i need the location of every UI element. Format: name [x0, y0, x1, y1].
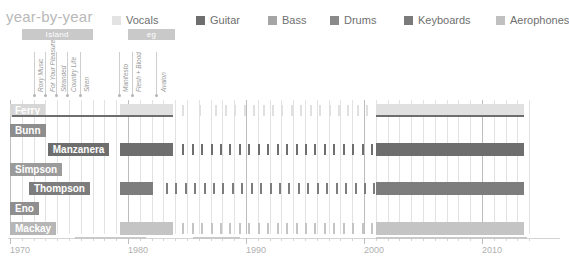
activity-block[interactable] — [376, 182, 525, 195]
row-label-thompson[interactable]: Thompson — [29, 182, 90, 195]
gridline — [506, 100, 507, 234]
axis-label-1990: 1990 — [246, 245, 266, 255]
gridline — [222, 100, 223, 234]
gridline — [69, 100, 70, 234]
legend-item-aerophones[interactable]: Aerophones — [496, 10, 569, 24]
era-bar-island[interactable]: Island — [22, 29, 93, 40]
activity-tick — [305, 144, 307, 155]
activity-block[interactable] — [120, 143, 173, 156]
activity-tick — [270, 183, 272, 194]
legend-item-guitar[interactable]: Guitar — [196, 10, 240, 24]
row-label-bunn[interactable]: Bunn — [10, 124, 46, 137]
activity-tick — [296, 144, 298, 155]
album-marker-dot — [131, 94, 134, 97]
gridline — [293, 100, 294, 234]
activity-tick — [204, 183, 206, 194]
legend-swatch-icon — [196, 16, 205, 25]
activity-tick — [211, 223, 213, 234]
row-label-manzanera[interactable]: Manzanera — [48, 143, 110, 156]
activity-tick — [324, 223, 326, 234]
axis-tick — [270, 238, 271, 241]
activity-tick — [248, 144, 250, 155]
album-label: Flesh + Blood — [135, 52, 142, 92]
gridline — [211, 100, 212, 234]
activity-tick — [307, 183, 309, 194]
legend-item-vocals[interactable]: Vocals — [112, 10, 158, 24]
axis-highlight — [75, 237, 146, 239]
album-marker-line — [119, 52, 120, 96]
activity-tick — [329, 105, 331, 116]
activity-block[interactable] — [376, 143, 525, 156]
legend-label: Drums — [344, 14, 376, 26]
gridline — [470, 100, 471, 234]
activity-tick — [220, 223, 222, 234]
gridline — [435, 100, 436, 234]
gridline — [270, 100, 271, 234]
row-label-simpson[interactable]: Simpson — [10, 163, 62, 176]
gridline — [388, 100, 389, 234]
era-bar-eg[interactable]: eg — [128, 29, 175, 40]
activity-tick — [175, 183, 177, 194]
activity-tick — [277, 144, 279, 155]
page-title: year-by-year — [6, 8, 93, 25]
activity-tick — [336, 183, 338, 194]
album-marker-line — [56, 52, 57, 96]
legend-item-bass[interactable]: Bass — [268, 10, 306, 24]
activity-tick — [277, 223, 279, 234]
activity-tick — [272, 105, 274, 116]
album-marker-dot — [55, 94, 58, 97]
axis-label-2010: 2010 — [482, 245, 502, 255]
axis-label-1980: 1980 — [128, 245, 148, 255]
activity-tick — [182, 105, 184, 116]
activity-tick — [192, 223, 194, 234]
activity-tick — [338, 105, 340, 116]
activity-tick — [286, 223, 288, 234]
gridline — [93, 100, 94, 234]
axis-tick — [293, 238, 294, 241]
activity-tick — [201, 223, 203, 234]
gridline — [423, 100, 424, 234]
gridline — [447, 100, 448, 234]
axis-tick — [258, 238, 259, 241]
gridline — [340, 100, 341, 234]
row-label-eno[interactable]: Eno — [10, 202, 39, 215]
activity-tick — [199, 105, 201, 116]
gridline — [175, 100, 176, 234]
axis-tick — [152, 238, 153, 241]
activity-tick — [281, 105, 283, 116]
activity-tick — [371, 223, 373, 234]
row-label-mackay[interactable]: Mackay — [10, 222, 56, 235]
album-label: Country Life — [70, 57, 77, 92]
activity-block[interactable] — [120, 222, 173, 235]
axis-tick — [246, 238, 247, 244]
gridline — [81, 100, 82, 234]
album-marker-dot — [44, 94, 47, 97]
timeline-plot: FerryBunnManzaneraSimpsonThompsonEnoMack… — [0, 100, 568, 238]
album-label: Manifesto — [122, 64, 129, 92]
axis-tick — [340, 238, 341, 241]
activity-tick — [305, 223, 307, 234]
activity-tick — [241, 183, 243, 194]
activity-tick — [244, 105, 246, 116]
activity-tick — [296, 223, 298, 234]
legend-item-keyboards[interactable]: Keyboards — [404, 10, 471, 24]
activity-block[interactable] — [120, 182, 153, 195]
legend-item-drums[interactable]: Drums — [330, 10, 376, 24]
activity-tick — [279, 183, 281, 194]
album-marker-line — [132, 52, 133, 96]
activity-tick — [239, 144, 241, 155]
ferry-accent-line — [376, 115, 525, 117]
ferry-accent-line — [12, 115, 172, 117]
activity-tick — [258, 144, 260, 155]
axis-tick — [281, 238, 282, 241]
gridline — [234, 100, 235, 234]
gridline — [116, 100, 117, 234]
axis-tick — [317, 238, 318, 241]
gridline — [152, 100, 153, 234]
activity-block[interactable] — [376, 222, 525, 235]
activity-tick — [310, 105, 312, 116]
activity-tick — [192, 144, 194, 155]
gridline — [305, 100, 306, 234]
activity-tick — [371, 144, 373, 155]
album-marker-dot — [79, 94, 82, 97]
